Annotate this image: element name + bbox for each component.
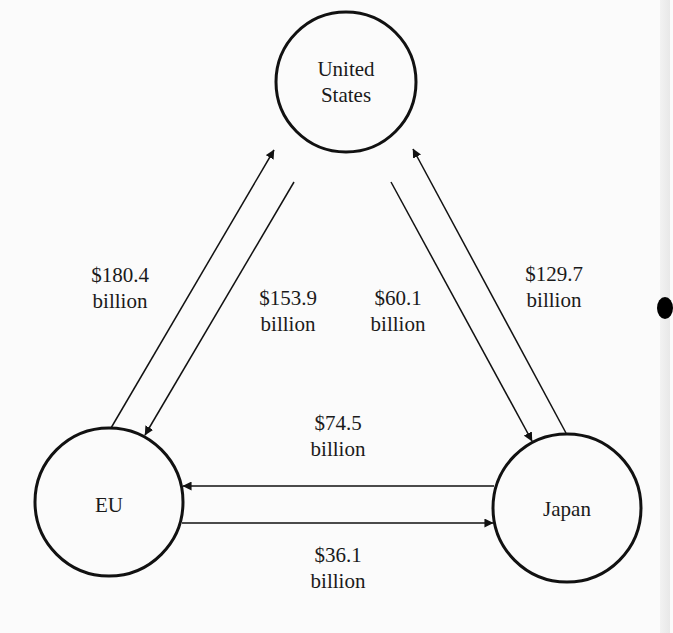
flow-amount: $180.4 <box>80 262 160 288</box>
binding-hole-dot <box>657 297 673 319</box>
flow-amount: $60.1 <box>358 285 438 311</box>
flow-amount: $36.1 <box>298 542 378 568</box>
node-label-japan: Japan <box>517 496 617 522</box>
flow-unit: billion <box>358 311 438 337</box>
node-label-united-states: United States <box>296 56 396 108</box>
flow-amount: $129.7 <box>514 261 594 287</box>
flow-unit: billion <box>298 436 378 462</box>
node-label-eu: EU <box>69 492 149 518</box>
flow-label-eu-to-japan: $36.1 billion <box>298 542 378 594</box>
us-label-line1: United <box>296 56 396 82</box>
flow-unit: billion <box>298 568 378 594</box>
flow-label-us-to-eu: $153.9 billion <box>248 285 328 337</box>
flow-amount: $153.9 <box>248 285 328 311</box>
flow-label-japan-to-eu: $74.5 billion <box>298 410 378 462</box>
flow-amount: $74.5 <box>298 410 378 436</box>
flow-label-eu-to-us: $180.4 billion <box>80 262 160 314</box>
flow-label-us-to-japan: $60.1 billion <box>358 285 438 337</box>
flow-unit: billion <box>248 311 328 337</box>
us-label-line2: States <box>296 82 396 108</box>
flow-unit: billion <box>514 287 594 313</box>
flow-label-japan-to-us: $129.7 billion <box>514 261 594 313</box>
flow-unit: billion <box>80 288 160 314</box>
